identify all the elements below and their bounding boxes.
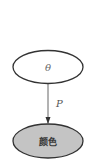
node-color: 颜色: [13, 124, 83, 158]
edge-theta-to-color: P: [46, 84, 64, 124]
node-color-label: 颜色: [39, 136, 57, 147]
node-theta-label: θ: [45, 62, 51, 73]
edge-label: P: [55, 98, 63, 109]
arrowhead-icon: [46, 117, 51, 124]
node-theta: θ: [13, 51, 83, 84]
graphical-model-diagram: P θ 颜色: [0, 0, 95, 166]
